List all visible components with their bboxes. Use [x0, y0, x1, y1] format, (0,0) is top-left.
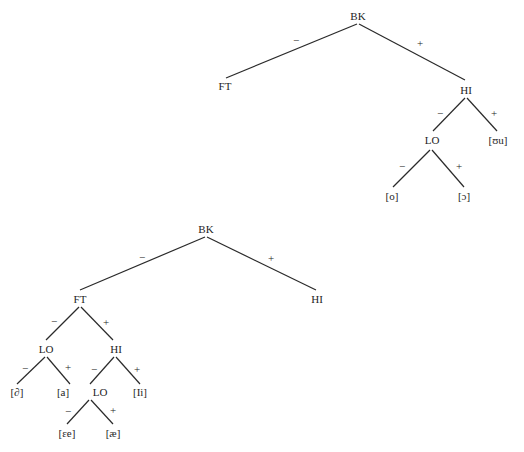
leaf-ee: [ɛe] — [59, 427, 76, 439]
sign-plus: + — [417, 38, 423, 49]
node-lo: LO — [39, 343, 54, 355]
edge-bk-hi — [207, 237, 316, 290]
edge-bk-ft — [226, 24, 357, 78]
sign-plus: + — [268, 253, 274, 264]
leaf-uu: [ʊu] — [489, 134, 508, 146]
sign-plus: + — [65, 362, 71, 373]
sign-minus: − — [437, 108, 443, 119]
sign-minus: − — [91, 364, 97, 375]
node-bk: BK — [198, 223, 213, 235]
node-bk: BK — [350, 10, 365, 22]
leaf-ii: [Ii] — [133, 386, 147, 398]
node-ft: FT — [219, 80, 232, 92]
sign-plus: + — [134, 364, 140, 375]
sign-plus: + — [491, 108, 497, 119]
leaf-open-o: [ɔ] — [458, 190, 470, 202]
edge-bk-ft — [80, 237, 205, 290]
sign-plus: + — [110, 405, 116, 416]
leaf-o: [o] — [386, 190, 399, 202]
sign-plus: + — [103, 317, 109, 328]
sign-minus: − — [293, 35, 299, 46]
node-hi: HI — [110, 343, 122, 355]
sign-minus: − — [22, 363, 28, 374]
node-hi-right: HI — [311, 293, 323, 305]
sign-minus: − — [65, 406, 71, 417]
sign-minus: − — [139, 252, 145, 263]
node-ft: FT — [74, 293, 87, 305]
node-lo2: LO — [93, 386, 108, 398]
node-hi: HI — [460, 84, 472, 96]
leaf-a: [a] — [57, 386, 69, 398]
node-lo: LO — [425, 134, 440, 146]
sign-minus: − — [51, 316, 57, 327]
tree-edges — [0, 0, 524, 452]
sign-minus: − — [399, 161, 405, 172]
leaf-schwa: [∂] — [11, 386, 24, 398]
edge-bk-hi — [359, 24, 465, 80]
leaf-ae: [æ] — [106, 427, 121, 439]
sign-plus: + — [456, 161, 462, 172]
